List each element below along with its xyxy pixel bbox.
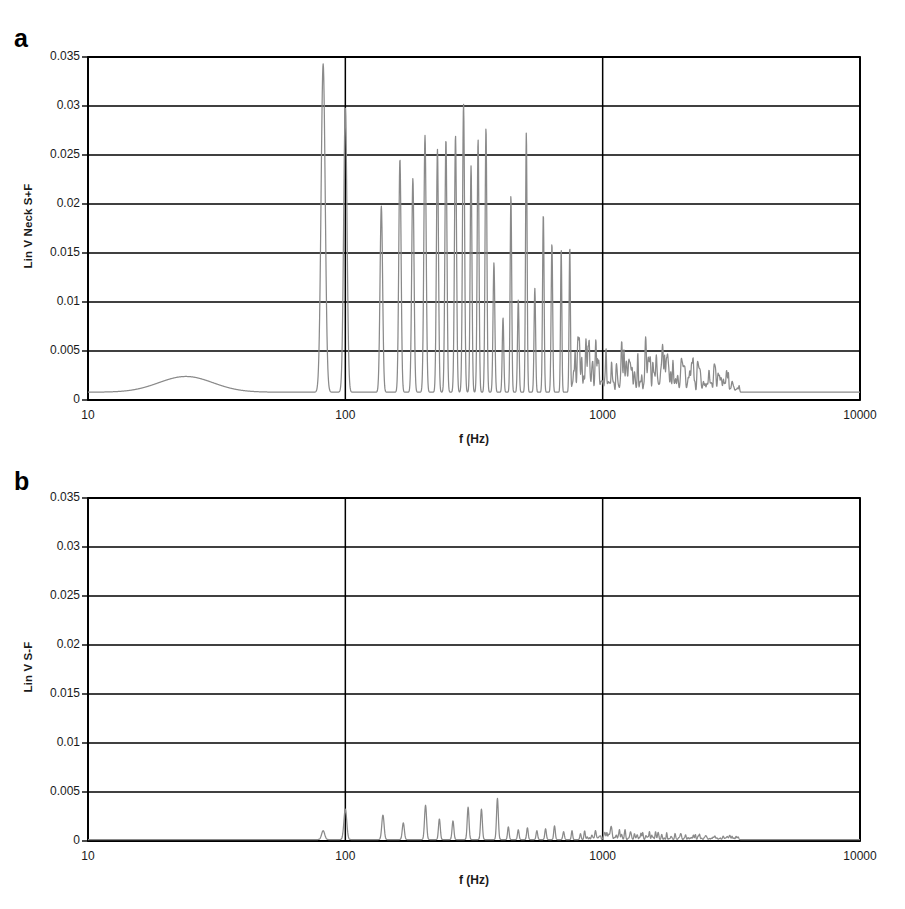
y-tick-label: 0.01 [18, 735, 80, 749]
panel-b-plot [0, 455, 905, 909]
y-tick-label: 0.035 [18, 490, 80, 504]
panel-a-x-axis-label: f (Hz) [414, 432, 534, 446]
y-tick-label: 0.035 [18, 49, 80, 63]
y-tick-label: 0.025 [18, 588, 80, 602]
x-tick-label: 10000 [820, 849, 900, 863]
spectrum-trace [88, 64, 860, 392]
panel-b: b Lin V S-F f (Hz) [0, 455, 905, 909]
y-tick-label: 0.02 [18, 196, 80, 210]
plot-frame [88, 498, 860, 841]
y-tick-label: 0 [18, 392, 80, 406]
y-tick-label: 0.02 [18, 637, 80, 651]
plot-frame [88, 57, 860, 400]
y-tick-label: 0 [18, 833, 80, 847]
y-tick-label: 0.015 [18, 686, 80, 700]
panel-b-svg [0, 455, 905, 909]
panel-b-x-axis-label: f (Hz) [414, 873, 534, 887]
y-tick-label: 0.01 [18, 294, 80, 308]
x-tick-label: 100 [305, 408, 385, 422]
panel-a-plot [0, 0, 905, 460]
panel-a: a Lin V Neck S+F f (Hz) [0, 0, 905, 460]
y-tick-label: 0.005 [18, 343, 80, 357]
panel-b-y-axis-label: Lin V S-F [22, 587, 34, 747]
x-tick-label: 10000 [820, 408, 900, 422]
y-tick-label: 0.025 [18, 147, 80, 161]
panel-a-svg [0, 0, 905, 460]
x-tick-label: 10 [48, 849, 128, 863]
y-tick-label: 0.03 [18, 98, 80, 112]
x-tick-label: 1000 [563, 408, 643, 422]
x-tick-label: 10 [48, 408, 128, 422]
panel-a-y-axis-label: Lin V Neck S+F [22, 146, 34, 306]
x-tick-label: 100 [305, 849, 385, 863]
x-tick-label: 1000 [563, 849, 643, 863]
spectrum-trace [88, 798, 860, 839]
y-tick-label: 0.03 [18, 539, 80, 553]
y-tick-label: 0.015 [18, 245, 80, 259]
y-tick-label: 0.005 [18, 784, 80, 798]
